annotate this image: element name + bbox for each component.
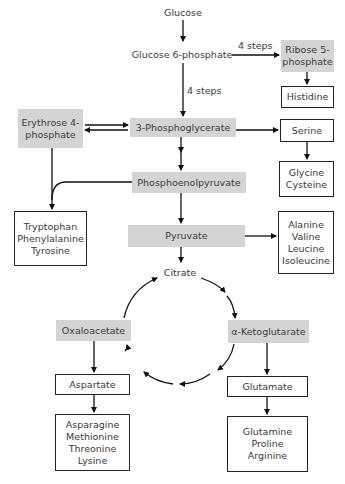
node-glycine-cysteine: Glycine Cysteine (279, 161, 334, 197)
node-aromatic-amino-acids: Tryptophan Phenylalanine Tyrosine (14, 211, 87, 266)
node-glutamate: Glutamate (227, 376, 308, 397)
node-aspartate: Aspartate (55, 374, 130, 395)
node-3-phosphoglycerate: 3-Phosphoglycerate (130, 118, 236, 137)
node-pyruvate: Pyruvate (128, 225, 245, 247)
node-pyruvate-family-amino-acids: Alanine Valine Leucine Isoleucine (278, 211, 334, 274)
node-glutamate-family-amino-acids: Glutamine Proline Arginine (227, 416, 308, 472)
node-ribose-5-phosphate: Ribose 5- phosphate (281, 40, 334, 72)
node-citrate: Citrate (158, 266, 202, 280)
node-phosphoenolpyruvate: Phosphoenolpyruvate (132, 172, 246, 193)
label-4-steps-3pg: 4 steps (187, 85, 222, 96)
node-histidine: Histidine (281, 86, 334, 108)
node-erythrose-4-phosphate: Erythrose 4- phosphate (18, 109, 83, 148)
node-alpha-ketoglutarate: α-Ketoglutarate (228, 320, 309, 343)
node-aspartate-family-amino-acids: Asparagine Methionine Threonine Lysine (55, 414, 130, 471)
node-serine: Serine (280, 119, 334, 142)
node-glucose-6-phosphate: Glucose 6-phosphate (130, 47, 234, 63)
node-oxaloacetate: Oxaloacetate (56, 320, 131, 341)
label-4-steps-ribose: 4 steps (238, 40, 273, 51)
node-glucose: Glucose (150, 6, 216, 20)
